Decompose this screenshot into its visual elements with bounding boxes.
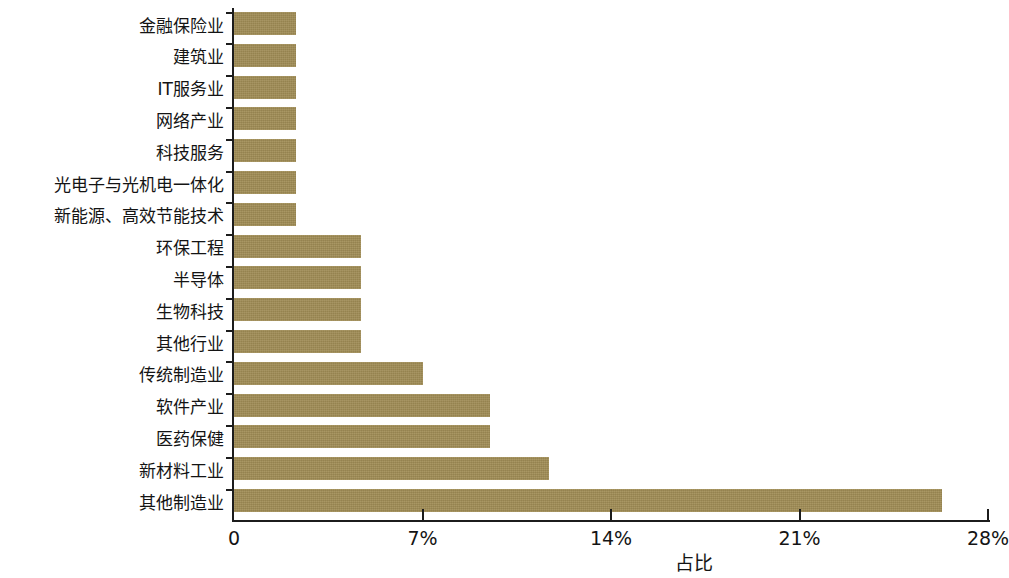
bar-row <box>234 457 549 480</box>
bar-row <box>234 171 296 194</box>
y-axis-tick-label: 科技服务 <box>0 139 228 162</box>
bar-row <box>234 489 942 512</box>
bar-row <box>234 362 423 385</box>
y-axis-tick-label-text: 环保工程 <box>156 234 224 259</box>
bar <box>234 12 296 35</box>
y-axis-tick-label-text: 科技服务 <box>156 138 224 163</box>
y-axis-tick-label: 新材料工业 <box>0 457 228 480</box>
x-axis-tick-label: 21% <box>778 527 820 549</box>
bar-row <box>234 203 296 226</box>
y-axis-tick-label-text: 金融保险业 <box>139 11 224 36</box>
bar-row <box>234 76 296 99</box>
y-axis-tick-label-text: 网络产业 <box>156 106 224 131</box>
y-axis-tick-label: 其他制造业 <box>0 489 228 512</box>
y-axis-tick-label: 光电子与光机电一体化 <box>0 171 228 194</box>
y-axis-tick-label: 金融保险业 <box>0 12 228 35</box>
y-axis-tick-label-text: 建筑业 <box>173 43 224 68</box>
bar-row <box>234 107 296 130</box>
bar <box>234 457 549 480</box>
y-axis-tick-label: 环保工程 <box>0 235 228 258</box>
x-axis-tick-origin <box>232 509 234 521</box>
y-axis-tick-label: 其他行业 <box>0 330 228 353</box>
bar-row <box>234 12 296 35</box>
bar <box>234 107 296 130</box>
y-axis-tick-label: 医药保健 <box>0 425 228 448</box>
bar-row <box>234 330 361 353</box>
bar-row <box>234 298 361 321</box>
y-axis-tick-label: 半导体 <box>0 266 228 289</box>
bar-row <box>234 394 490 417</box>
bar-row <box>234 44 296 67</box>
x-axis-tick <box>422 509 424 521</box>
bar <box>234 394 490 417</box>
y-axis-tick-label-text: 其他行业 <box>156 329 224 354</box>
x-axis-tick-label: 0 <box>228 527 240 549</box>
y-axis-tick-label-text: 医药保健 <box>156 424 224 449</box>
x-axis-tick-label: 7% <box>407 527 437 549</box>
bar <box>234 44 296 67</box>
x-axis-title: 占比 <box>0 552 1009 574</box>
bar <box>234 76 296 99</box>
y-axis-tick-label-text: IT服务业 <box>158 75 224 100</box>
y-axis-tick-label: 软件产业 <box>0 394 228 417</box>
bar <box>234 298 361 321</box>
y-axis-tick-label: IT服务业 <box>0 76 228 99</box>
bar <box>234 203 296 226</box>
bar <box>234 139 296 162</box>
y-axis-tick-label: 传统制造业 <box>0 362 228 385</box>
y-axis-tick-label: 新能源、高效节能技术 <box>0 203 228 226</box>
y-axis-tick-label-text: 其他制造业 <box>139 488 224 513</box>
x-axis-tick <box>610 509 612 521</box>
x-axis-tick-label: 14% <box>590 527 632 549</box>
x-axis-tick <box>799 509 801 521</box>
y-axis-tick-label: 生物科技 <box>0 298 228 321</box>
bar-row <box>234 235 361 258</box>
bar <box>234 235 361 258</box>
bar <box>234 489 942 512</box>
y-axis-tick-label-text: 传统制造业 <box>139 361 224 386</box>
bar <box>234 266 361 289</box>
bar-row <box>234 266 361 289</box>
y-axis-tick-label-text: 生物科技 <box>156 297 224 322</box>
y-axis-tick-label-text: 新材料工业 <box>139 456 224 481</box>
y-axis-tick-label-text: 光电子与光机电一体化 <box>54 170 224 195</box>
bar <box>234 171 296 194</box>
bar-row <box>234 139 296 162</box>
bar <box>234 330 361 353</box>
x-axis-tick-label: 28% <box>967 527 1009 549</box>
y-axis-tick-label-text: 软件产业 <box>156 393 224 418</box>
bar <box>234 425 490 448</box>
x-axis-tick <box>987 509 989 521</box>
y-axis-tick-label: 建筑业 <box>0 44 228 67</box>
x-axis-title-label: 占比 <box>675 552 713 574</box>
bar <box>234 362 423 385</box>
horizontal-bar-chart: 金融保险业建筑业IT服务业网络产业科技服务光电子与光机电一体化新能源、高效节能技… <box>0 0 1009 578</box>
y-axis-tick-label-text: 新能源、高效节能技术 <box>54 202 224 227</box>
y-axis-tick-label-text: 半导体 <box>173 265 224 290</box>
bar-row <box>234 425 490 448</box>
y-axis-tick-label: 网络产业 <box>0 107 228 130</box>
